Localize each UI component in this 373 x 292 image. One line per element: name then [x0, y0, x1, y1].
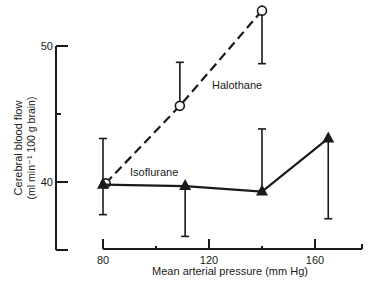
triangle-marker — [179, 179, 191, 190]
series-layer: HalothaneIsoflurane — [97, 6, 334, 236]
series-label: Halothane — [212, 79, 262, 91]
axes: 405080120160 — [41, 40, 362, 266]
circle-marker — [175, 101, 184, 110]
y-axis-label-line2: (ml min⁻¹ 100 g brain) — [25, 97, 37, 200]
y-tick-label: 50 — [41, 40, 53, 52]
series-isoflurane: Isoflurane — [97, 129, 334, 236]
series-line — [103, 138, 328, 191]
chart: 405080120160 HalothaneIsoflurane Mean ar… — [0, 0, 373, 292]
circle-marker — [258, 6, 267, 15]
series-halothane: Halothane — [101, 6, 266, 188]
x-axis-label: Mean arterial pressure (mm Hg) — [152, 265, 308, 277]
y-tick-label: 40 — [41, 176, 53, 188]
series-line — [106, 11, 262, 184]
triangle-marker — [256, 185, 268, 196]
x-tick-label: 80 — [97, 254, 109, 266]
series-label: Isoflurane — [130, 166, 178, 178]
triangle-marker — [322, 131, 334, 142]
y-axis-label-line1: Cerebral blood flow — [12, 101, 24, 196]
x-tick-label: 160 — [306, 254, 324, 266]
